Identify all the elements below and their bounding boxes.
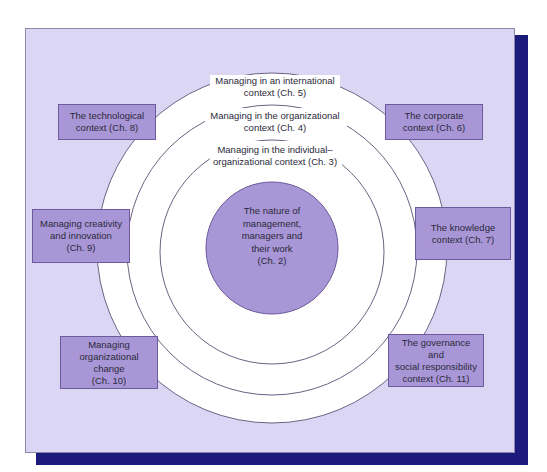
ring-label-line: context (Ch. 5) bbox=[200, 87, 350, 99]
core-label-line: The nature of bbox=[222, 205, 322, 218]
box-corporate-context: The corporate context (Ch. 6) bbox=[385, 104, 483, 140]
box-label-line: (Ch. 9) bbox=[40, 242, 122, 254]
ring-label-individual: Managing in the individual– organization… bbox=[195, 144, 355, 168]
core-label: The nature of management, managers and t… bbox=[222, 205, 322, 268]
box-organizational-change: Managing organizational change (Ch. 10) bbox=[60, 336, 158, 389]
box-label-line: organizational change bbox=[65, 351, 153, 375]
box-technological-context: The technological context (Ch. 8) bbox=[58, 104, 156, 140]
box-label-line: social responsibility bbox=[393, 361, 479, 373]
box-label-line: context (Ch. 7) bbox=[431, 234, 495, 246]
ring-label-organizational: Managing in the organizational context (… bbox=[195, 110, 355, 134]
box-label-line: Managing bbox=[65, 339, 153, 351]
box-label-line: context (Ch. 6) bbox=[403, 122, 465, 134]
ring-label-line: context (Ch. 4) bbox=[195, 122, 355, 134]
box-label-line: The corporate bbox=[403, 110, 465, 122]
box-label-line: context (Ch. 11) bbox=[393, 373, 479, 385]
core-label-line: (Ch. 2) bbox=[222, 255, 322, 268]
box-label-line: Managing creativity bbox=[40, 218, 122, 230]
box-label-line: (Ch. 10) bbox=[65, 375, 153, 387]
core-label-line: management, bbox=[222, 218, 322, 231]
ring-label-line: organizational context (Ch. 3) bbox=[195, 156, 355, 168]
box-knowledge-context: The knowledge context (Ch. 7) bbox=[415, 207, 511, 260]
box-label-line: context (Ch. 8) bbox=[70, 122, 144, 134]
ring-label-international: Managing in an international context (Ch… bbox=[200, 75, 350, 99]
box-label-line: The technological bbox=[70, 110, 144, 122]
ring-label-line: Managing in the organizational bbox=[195, 110, 355, 122]
box-creativity-innovation: Managing creativity and innovation (Ch. … bbox=[32, 209, 130, 263]
core-label-line: their work bbox=[222, 243, 322, 256]
box-governance-social-responsibility: The governance and social responsibility… bbox=[388, 334, 484, 387]
ring-label-line: Managing in the individual– bbox=[195, 144, 355, 156]
box-label-line: The knowledge bbox=[431, 222, 495, 234]
box-label-line: The governance and bbox=[393, 337, 479, 361]
core-label-line: managers and bbox=[222, 230, 322, 243]
ring-label-line: Managing in an international bbox=[200, 75, 350, 87]
box-label-line: and innovation bbox=[40, 230, 122, 242]
